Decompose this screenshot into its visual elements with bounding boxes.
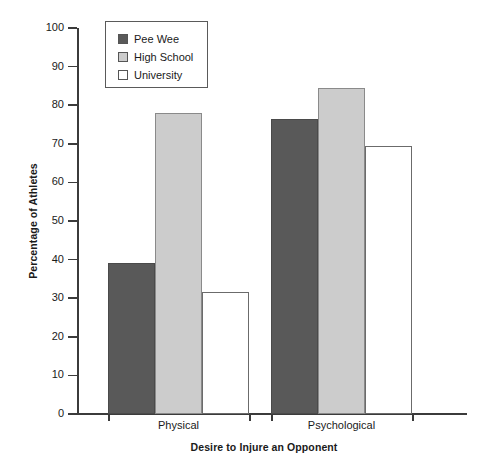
y-tick-label: 30 — [24, 291, 64, 303]
y-tick-label: 20 — [24, 330, 64, 342]
legend-swatch-university — [118, 70, 128, 80]
legend-swatch-highschool — [118, 52, 128, 62]
bar-peewee-psychological — [271, 119, 318, 414]
y-tick-label: 60 — [24, 175, 64, 187]
y-tick — [68, 297, 77, 299]
legend-item-university: University — [118, 66, 207, 83]
y-tick — [68, 259, 77, 261]
legend-label-highschool: High School — [134, 51, 193, 63]
y-tick — [68, 27, 77, 29]
x-axis-title: Desire to Injure an Opponent — [74, 441, 454, 453]
legend-item-peewee: Pee Wee — [118, 30, 207, 47]
x-tick — [412, 415, 414, 421]
y-tick-label: 100 — [24, 21, 64, 33]
y-tick — [68, 413, 77, 415]
y-tick-label: 40 — [24, 253, 64, 265]
y-tick — [68, 143, 77, 145]
bar-highschool-psychological — [318, 88, 365, 414]
x-tick — [108, 415, 110, 421]
y-axis-line — [77, 28, 79, 415]
y-tick-label: 90 — [24, 60, 64, 72]
y-tick-label: 50 — [24, 214, 64, 226]
y-tick — [68, 375, 77, 377]
x-category-label: Psychological — [308, 419, 375, 431]
y-tick — [68, 220, 77, 222]
y-tick — [68, 104, 77, 106]
y-tick — [68, 66, 77, 68]
y-tick-label: 80 — [24, 98, 64, 110]
y-tick-label: 0 — [24, 407, 64, 419]
y-tick-label: 70 — [24, 137, 64, 149]
bar-university-physical — [202, 292, 249, 414]
chart-legend: Pee Wee High School University — [105, 21, 208, 88]
bar-highschool-physical — [155, 113, 202, 414]
y-tick — [68, 182, 77, 184]
legend-item-highschool: High School — [118, 48, 207, 65]
x-tick — [249, 415, 251, 421]
x-category-label: Physical — [158, 419, 199, 431]
x-tick — [271, 415, 273, 421]
bar-chart: Percentage of Athletes 01020304050607080… — [0, 0, 477, 461]
bar-university-psychological — [365, 146, 412, 414]
y-tick-label: 10 — [24, 368, 64, 380]
y-tick — [68, 336, 77, 338]
legend-label-university: University — [134, 69, 182, 81]
bar-peewee-physical — [108, 263, 155, 414]
legend-swatch-peewee — [118, 34, 128, 44]
legend-label-peewee: Pee Wee — [134, 33, 179, 45]
